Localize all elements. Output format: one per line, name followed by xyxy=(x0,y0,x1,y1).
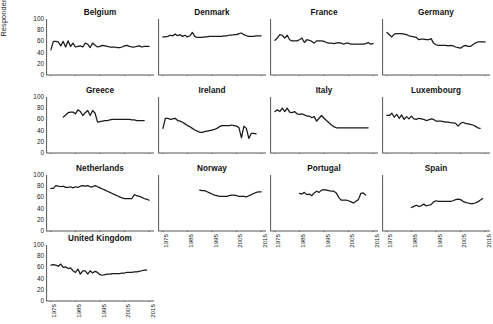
plot-area: 19751985199520052015 xyxy=(382,175,490,231)
panel-title: United Kingdom xyxy=(46,234,154,245)
x-tick-label: 1995 xyxy=(435,234,442,248)
plot-area: 19751985199520052015 xyxy=(158,175,266,231)
plot-area xyxy=(382,19,490,75)
axis-lines xyxy=(271,97,378,153)
data-line xyxy=(275,35,373,45)
panel-title: Netherlands xyxy=(46,164,154,175)
data-line xyxy=(387,113,480,128)
x-tick-label: 2005 xyxy=(348,234,355,248)
panel-title: Ireland xyxy=(158,86,266,97)
y-tick-label: 40 xyxy=(37,206,44,212)
data-line xyxy=(63,110,144,122)
data-line xyxy=(51,186,149,201)
y-tick-label: 20 xyxy=(37,217,44,223)
plot-area xyxy=(270,19,378,75)
y-tick-label: 60 xyxy=(37,194,44,200)
y-tick-label: 100 xyxy=(33,16,44,22)
y-tick-label: 80 xyxy=(37,253,44,259)
y-tick-label: 20 xyxy=(37,61,44,67)
axis-lines xyxy=(159,175,266,231)
x-tick-label: 2015 xyxy=(260,234,267,248)
x-tick-label: 1995 xyxy=(99,304,106,318)
data-line xyxy=(200,190,261,197)
panel-title: Portugal xyxy=(270,164,378,175)
y-tick-label: 100 xyxy=(33,172,44,178)
axis-lines xyxy=(47,245,154,301)
y-tick-label: 100 xyxy=(33,94,44,100)
figure-small-multiples: Respondents with party attachment (%) Be… xyxy=(0,0,493,324)
plot-area xyxy=(158,97,266,153)
x-tick-label: 2005 xyxy=(236,234,243,248)
y-tick-label: 40 xyxy=(37,50,44,56)
data-line xyxy=(163,118,256,138)
plot-area: 020406080100 xyxy=(46,175,154,231)
data-line xyxy=(51,264,147,275)
panel-title: Germany xyxy=(382,8,490,19)
data-line xyxy=(51,41,149,50)
data-line xyxy=(387,32,485,48)
plot-area xyxy=(270,97,378,153)
y-tick-label: 80 xyxy=(37,105,44,111)
y-tick-label: 100 xyxy=(33,242,44,248)
y-tick-label: 80 xyxy=(37,27,44,33)
axis-lines xyxy=(47,97,154,153)
y-tick-label: 0 xyxy=(40,228,44,234)
y-tick-label: 0 xyxy=(40,150,44,156)
axis-lines xyxy=(47,175,154,231)
panel-title: Belgium xyxy=(46,8,154,19)
y-tick-label: 40 xyxy=(37,276,44,282)
data-line xyxy=(411,199,482,208)
y-tick-label: 0 xyxy=(40,72,44,78)
x-tick-label: 1985 xyxy=(186,234,193,248)
panel-title: Denmark xyxy=(158,8,266,19)
y-tick-label: 80 xyxy=(37,183,44,189)
y-tick-label: 60 xyxy=(37,116,44,122)
y-tick-label: 60 xyxy=(37,264,44,270)
x-tick-label: 2015 xyxy=(484,234,491,248)
x-tick-label: 1975 xyxy=(386,234,393,248)
x-tick-label: 1995 xyxy=(323,234,330,248)
axis-lines xyxy=(159,19,266,75)
x-tick-label: 1985 xyxy=(410,234,417,248)
panel-title: Italy xyxy=(270,86,378,97)
y-tick-label: 20 xyxy=(37,139,44,145)
panel-title: France xyxy=(270,8,378,19)
plot-area xyxy=(158,19,266,75)
x-tick-label: 1975 xyxy=(162,234,169,248)
x-tick-label: 1995 xyxy=(211,234,218,248)
plot-area: 020406080100 xyxy=(46,19,154,75)
x-tick-label: 1985 xyxy=(74,304,81,318)
x-tick-label: 2015 xyxy=(372,234,379,248)
panel-title: Luxembourg xyxy=(382,86,490,97)
axis-lines xyxy=(159,97,266,153)
panel-title: Spain xyxy=(382,164,490,175)
y-tick-label: 20 xyxy=(37,287,44,293)
plot-area: 02040608010019751985199520052015 xyxy=(46,245,154,301)
y-tick-label: 40 xyxy=(37,128,44,134)
x-tick-label: 1975 xyxy=(50,304,57,318)
axis-lines xyxy=(47,19,154,75)
plot-area xyxy=(382,97,490,153)
x-tick-label: 2015 xyxy=(148,304,155,318)
y-axis-label: Respondents with party attachment (%) xyxy=(0,0,8,55)
y-tick-label: 0 xyxy=(40,298,44,304)
y-tick-label: 60 xyxy=(37,38,44,44)
x-tick-label: 1985 xyxy=(298,234,305,248)
data-line xyxy=(163,32,261,37)
plot-area: 19751985199520052015 xyxy=(270,175,378,231)
x-tick-label: 2005 xyxy=(460,234,467,248)
axis-lines xyxy=(271,175,378,231)
data-line xyxy=(275,108,368,128)
axis-lines xyxy=(271,19,378,75)
plot-area: 020406080100 xyxy=(46,97,154,153)
panel-title: Norway xyxy=(158,164,266,175)
x-tick-label: 2005 xyxy=(124,304,131,318)
panel-title: Greece xyxy=(46,86,154,97)
x-tick-label: 1975 xyxy=(274,234,281,248)
data-line xyxy=(299,190,365,203)
axis-lines xyxy=(383,19,490,75)
